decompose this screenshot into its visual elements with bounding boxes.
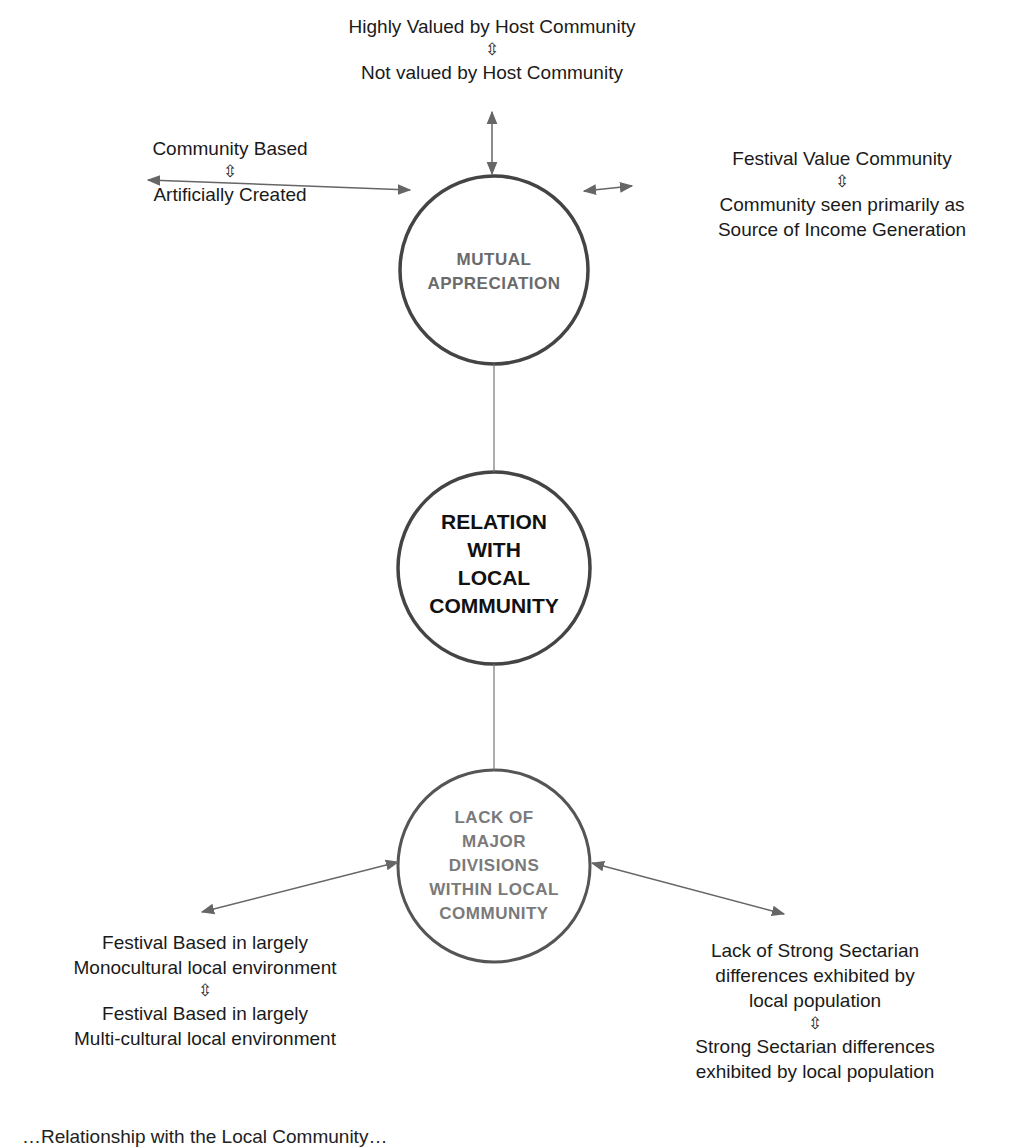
node-line: RELATION xyxy=(394,508,594,536)
node-line: LOCAL xyxy=(394,564,594,592)
arrow-bottom-left xyxy=(202,862,398,912)
arrow-top-right xyxy=(584,186,632,191)
dimension-lower: Source of Income Generation xyxy=(718,219,966,240)
double-arrow-icon: ⇳ xyxy=(292,39,692,60)
dimension-community-based: Community Based ⇳ Artificially Created xyxy=(110,136,350,207)
arrow-bottom-right xyxy=(592,863,784,914)
node-line: LACK OF xyxy=(394,806,594,830)
double-arrow-icon: ⇳ xyxy=(110,161,350,182)
dimension-upper: Monocultural local environment xyxy=(74,957,337,978)
dimension-upper: Festival Value Community xyxy=(732,148,951,169)
double-arrow-icon: ⇳ xyxy=(672,171,1012,192)
dimension-lower: Strong Sectarian differences xyxy=(695,1036,934,1057)
double-arrow-icon: ⇳ xyxy=(10,980,400,1001)
dimension-festival-value-community: Festival Value Community ⇳ Community see… xyxy=(672,146,1012,242)
dimension-cultural-environment: Festival Based in largely Monocultural l… xyxy=(10,930,400,1051)
node-line: DIVISIONS xyxy=(394,854,594,878)
dimension-lower: Not valued by Host Community xyxy=(361,62,623,83)
node-line: COMMUNITY xyxy=(394,592,594,620)
node-line: MAJOR xyxy=(394,830,594,854)
dimension-lower: Multi-cultural local environment xyxy=(74,1028,336,1049)
dimension-upper: local population xyxy=(749,990,881,1011)
dimension-upper: Lack of Strong Sectarian xyxy=(711,940,919,961)
node-line: MUTUAL xyxy=(394,248,594,272)
dimension-lower: Community seen primarily as xyxy=(720,194,965,215)
figure-caption: …Relationship with the Local Community… xyxy=(22,1126,387,1148)
dimension-upper: Community Based xyxy=(152,138,307,159)
dimension-lower: Festival Based in largely xyxy=(102,1003,308,1024)
node-line: COMMUNITY xyxy=(394,902,594,926)
dimension-upper: differences exhibited by xyxy=(715,965,914,986)
dimension-sectarian-differences: Lack of Strong Sectarian differences exh… xyxy=(630,938,1000,1084)
dimension-upper: Highly Valued by Host Community xyxy=(349,16,636,37)
double-arrow-icon: ⇳ xyxy=(630,1013,1000,1034)
node-mutual-appreciation-label: MUTUAL APPRECIATION xyxy=(394,248,594,296)
node-relation-label: RELATION WITH LOCAL COMMUNITY xyxy=(394,508,594,620)
dimension-lower: exhibited by local population xyxy=(696,1061,935,1082)
node-line: WITHIN LOCAL xyxy=(394,878,594,902)
dimension-upper: Festival Based in largely xyxy=(102,932,308,953)
dimension-lower: Artificially Created xyxy=(153,184,306,205)
dimension-host-community-value: Highly Valued by Host Community ⇳ Not va… xyxy=(292,14,692,85)
node-lack-of-divisions-label: LACK OF MAJOR DIVISIONS WITHIN LOCAL COM… xyxy=(394,806,594,926)
node-line: APPRECIATION xyxy=(394,272,594,296)
node-line: WITH xyxy=(394,536,594,564)
